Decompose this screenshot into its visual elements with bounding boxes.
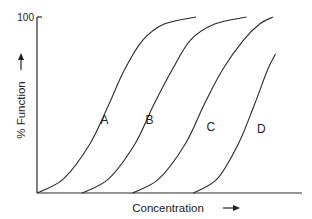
y-axis-title: % Function [15,53,27,139]
curve-b [82,17,246,193]
curve-label-c: C [207,120,216,134]
curve-a [37,17,196,193]
curve-label-a: A [101,113,109,127]
curve-label-d: D [257,122,266,136]
y-tick-label: 100 [17,12,34,23]
dose-response-chart: 100 ABCD Concentration % Function [0,0,312,219]
y-axis-label: % Function [15,81,27,139]
x-axis-label: Concentration [132,202,204,214]
x-axis-arrowhead-icon [233,205,240,211]
curve-label-b: B [146,113,154,127]
x-axis-title: Concentration [132,202,240,214]
y-axis-arrowhead-icon [18,53,24,60]
